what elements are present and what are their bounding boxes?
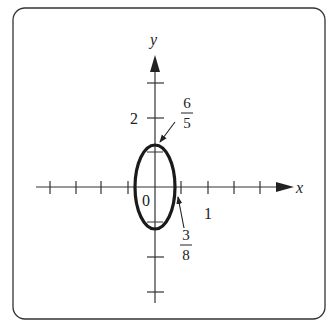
svg-text:8: 8	[182, 247, 190, 263]
annotation-six-fifths: 6 5	[160, 95, 193, 142]
x-axis-label: x	[295, 179, 303, 196]
y-axis: y 2	[130, 31, 164, 303]
y-tick-label: 2	[130, 110, 138, 127]
y-axis-label: y	[148, 31, 158, 49]
annotation-three-eighths: 3 8	[178, 197, 192, 263]
frame-border	[13, 8, 325, 319]
x-axis-arrow-icon	[276, 182, 294, 192]
ellipse-diagram: x 1 y 2 0 6 5 3 8	[0, 0, 329, 324]
svg-text:3: 3	[182, 227, 190, 243]
svg-text:5: 5	[183, 115, 191, 131]
y-axis-arrow-icon	[150, 55, 160, 72]
x-tick-label: 1	[204, 205, 212, 222]
origin-label: 0	[142, 192, 150, 209]
svg-text:6: 6	[183, 95, 191, 111]
